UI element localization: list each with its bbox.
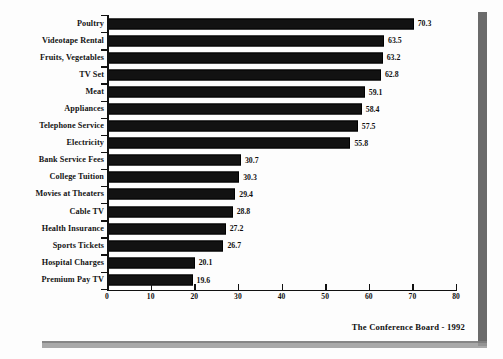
bar [107, 18, 414, 29]
bar [107, 69, 381, 80]
category-label: TV Set [79, 71, 104, 79]
bar-with-value: 28.8 [107, 206, 250, 217]
bar-row: Telephone Service57.5 [0, 118, 478, 135]
y-axis-tick [101, 203, 107, 204]
bar-row: Videotape Rental63.5 [0, 32, 478, 49]
y-axis-line [107, 15, 109, 290]
page-shadow-right [478, 12, 487, 346]
bar [107, 257, 195, 268]
y-axis-tick [101, 66, 107, 67]
category-label: Appliances [64, 105, 104, 113]
category-label: Movies at Theaters [36, 190, 105, 198]
y-axis-tick [101, 254, 107, 255]
y-axis-tick [101, 49, 107, 50]
bar-with-value: 30.7 [107, 155, 259, 166]
bar-with-value: 59.1 [107, 86, 382, 97]
x-axis-tick [107, 284, 108, 290]
bar-with-value: 58.4 [107, 104, 379, 115]
bar-with-value: 63.5 [107, 35, 402, 46]
bar-with-value: 57.5 [107, 121, 376, 132]
bar-with-value: 29.4 [107, 189, 253, 200]
bar-with-value: 63.2 [107, 52, 400, 63]
bar-value-label: 29.4 [239, 191, 253, 199]
x-axis-tick-label: 10 [147, 293, 155, 301]
y-axis-tick [101, 272, 107, 273]
bar-with-value: 20.1 [107, 257, 212, 268]
x-axis-tick [194, 284, 195, 290]
category-label: Health Insurance [42, 225, 104, 233]
bar-row: Health Insurance27.2 [0, 220, 478, 237]
plot-area: Poultry70.3Videotape Rental63.5Fruits, V… [0, 0, 478, 341]
x-axis-tick [325, 284, 326, 290]
bar-value-label: 58.4 [366, 105, 380, 113]
x-axis-tick [282, 284, 283, 290]
y-axis-tick [101, 152, 107, 153]
bar-value-label: 57.5 [362, 122, 376, 130]
bar [107, 240, 223, 251]
x-axis-tick [151, 284, 152, 290]
bar [107, 206, 233, 217]
bar-row: Cable TV28.8 [0, 203, 478, 220]
bar-value-label: 55.8 [354, 139, 368, 147]
category-label: Videotape Rental [42, 37, 104, 45]
bar-row: Fruits, Vegetables63.2 [0, 49, 478, 66]
category-label: Cable TV [69, 207, 104, 215]
y-axis-tick [101, 101, 107, 102]
x-axis-tick [412, 284, 413, 290]
y-axis-tick [101, 237, 107, 238]
y-axis-tick [101, 135, 107, 136]
bar-value-label: 63.5 [388, 37, 402, 45]
x-axis-tick-label: 80 [452, 293, 460, 301]
bar [107, 35, 384, 46]
bar [107, 155, 241, 166]
bar [107, 121, 358, 132]
bar-rows: Poultry70.3Videotape Rental63.5Fruits, V… [0, 15, 478, 289]
bar-value-label: 19.6 [197, 276, 211, 284]
bar-value-label: 63.2 [387, 54, 401, 62]
bar-value-label: 27.2 [230, 225, 244, 233]
bar-row: TV Set62.8 [0, 66, 478, 83]
bar [107, 223, 226, 234]
y-axis-tick [101, 220, 107, 221]
category-label: Sports Tickets [53, 242, 104, 250]
category-label: Fruits, Vegetables [40, 54, 104, 62]
bar-row: Bank Service Fees30.7 [0, 152, 478, 169]
category-label: Meat [85, 88, 104, 96]
chart-page: Poultry70.3Videotape Rental63.5Fruits, V… [0, 0, 503, 359]
category-label: College Tuition [49, 173, 104, 181]
bar-row: Sports Tickets26.7 [0, 237, 478, 254]
y-axis-tick [101, 15, 107, 16]
bar-value-label: 30.7 [245, 156, 259, 164]
bar-row: College Tuition30.3 [0, 169, 478, 186]
y-axis-tick [101, 83, 107, 84]
bar-with-value: 30.3 [107, 172, 257, 183]
chart-attribution: The Conference Board - 1992 [0, 322, 465, 332]
y-axis-tick [101, 169, 107, 170]
x-axis-line [107, 290, 457, 292]
bar [107, 172, 239, 183]
x-axis-tick [238, 284, 239, 290]
bar-value-label: 26.7 [227, 242, 241, 250]
bar [107, 86, 365, 97]
bar-value-label: 30.3 [243, 173, 257, 181]
x-axis-tick-label: 70 [409, 293, 417, 301]
bar [107, 138, 350, 149]
category-label: Poultry [77, 19, 104, 27]
bar-with-value: 26.7 [107, 240, 241, 251]
bar-row: Hospital Charges20.1 [0, 254, 478, 271]
x-axis-tick [456, 284, 457, 290]
x-axis-tick-label: 60 [365, 293, 373, 301]
x-axis-tick [369, 284, 370, 290]
x-axis-tick-label: 40 [278, 293, 286, 301]
bar [107, 104, 362, 115]
bar-row: Appliances58.4 [0, 100, 478, 117]
bar-row: Electricity55.8 [0, 135, 478, 152]
x-axis-tick-label: 0 [105, 293, 109, 301]
x-axis-tick-label: 20 [190, 293, 198, 301]
y-axis-tick [101, 186, 107, 187]
bar [107, 189, 235, 200]
bar-with-value: 27.2 [107, 223, 243, 234]
bar-with-value: 70.3 [107, 18, 431, 29]
y-axis-tick [101, 118, 107, 119]
bar-row: Poultry70.3 [0, 15, 478, 32]
